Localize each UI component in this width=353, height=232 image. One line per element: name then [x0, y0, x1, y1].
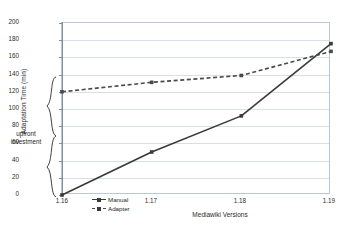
y-tick-180: 180 — [0, 35, 19, 42]
legend-item-manual[interactable]: Manual — [92, 195, 130, 204]
y-tick-160: 160 — [0, 52, 19, 59]
x-tick-label-3: 1.19 — [312, 197, 346, 204]
plot-area — [61, 22, 330, 194]
y-tick-200: 200 — [0, 18, 19, 25]
series-line-manual — [62, 44, 331, 195]
y-tick-60: 60 — [0, 138, 19, 145]
y-tick-100: 100 — [0, 104, 19, 111]
y-tick-120: 120 — [0, 87, 19, 94]
x-tick-label-1: 1.17 — [134, 197, 168, 204]
data-point-manual-1.19 — [329, 42, 333, 46]
data-point-adapter-1.16 — [60, 90, 64, 94]
legend-label-manual: Manual — [108, 196, 128, 203]
y-tick-140: 140 — [0, 70, 19, 77]
y-tick-80: 80 — [0, 121, 19, 128]
y-tick-20: 20 — [0, 173, 19, 180]
data-point-manual-1.18 — [240, 114, 244, 118]
legend-swatch-manual — [92, 196, 106, 203]
chart-legend: Manual Adapter — [92, 195, 130, 213]
x-axis-title: Mediawiki Versions — [150, 211, 290, 218]
data-series-group — [62, 23, 331, 195]
y-tick-40: 40 — [0, 156, 19, 163]
x-tick-label-2: 1.18 — [223, 197, 257, 204]
series-line-adapter — [62, 51, 331, 91]
data-point-adapter-1.19 — [329, 50, 333, 54]
legend-label-adapter: Adapter — [108, 205, 130, 212]
data-point-manual-1.17 — [150, 150, 154, 154]
legend-item-adapter[interactable]: Adapter — [92, 204, 130, 213]
data-point-adapter-1.17 — [150, 81, 154, 85]
x-tick-label-0: 1.16 — [45, 197, 79, 204]
legend-swatch-adapter — [92, 205, 106, 212]
data-point-adapter-1.18 — [240, 74, 244, 78]
y-tick-0: 0 — [0, 190, 19, 197]
chart-canvas: Adaptation Time (min) upfront investment… — [0, 0, 353, 232]
